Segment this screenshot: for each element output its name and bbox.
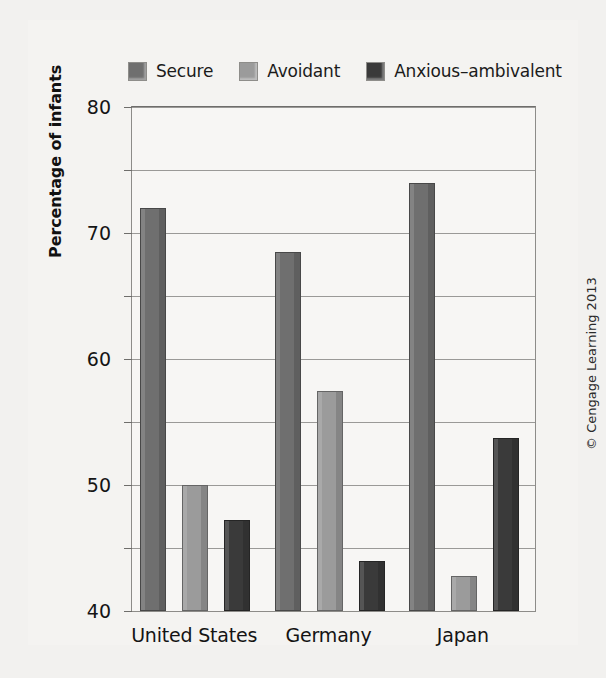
- gridline: [132, 170, 535, 171]
- legend-label-anxious-ambivalent: Anxious–ambivalent: [394, 61, 562, 81]
- bar-japan-anxious-ambivalent: [493, 438, 519, 611]
- legend-label-secure: Secure: [156, 61, 213, 81]
- legend-label-avoidant: Avoidant: [267, 61, 340, 81]
- bar-shade: [201, 486, 207, 610]
- legend-item-avoidant: Avoidant: [239, 61, 340, 81]
- legend-item-secure: Secure: [128, 61, 213, 81]
- x-axis-label-germany: Germany: [286, 624, 372, 646]
- legend-swatch-secure: [128, 62, 147, 81]
- gridline: [132, 233, 535, 234]
- y-axis-tick-label: 50: [87, 474, 111, 496]
- bar-highlight: [360, 562, 364, 610]
- bar-highlight: [318, 392, 322, 611]
- gridline: [132, 359, 535, 360]
- bar-japan-avoidant: [451, 576, 477, 611]
- bar-shade: [336, 392, 342, 611]
- bar-germany-anxious-ambivalent: [359, 561, 385, 611]
- y-axis-tick: 50: [124, 296, 132, 297]
- bar-united-states-anxious-ambivalent: [224, 520, 250, 611]
- figure-container: Secure Avoidant Anxious–ambivalent Perce…: [0, 0, 606, 678]
- legend-swatch-anxious-ambivalent: [366, 62, 385, 81]
- bar-highlight: [494, 439, 498, 610]
- y-axis-tick-label: 60: [87, 348, 111, 370]
- bar-shade: [159, 209, 165, 610]
- y-axis-tick-label: 80: [87, 96, 111, 118]
- gridline: [132, 296, 535, 297]
- bar-shade: [428, 184, 434, 610]
- legend-swatch-avoidant: [239, 62, 258, 81]
- bar-germany-avoidant: [317, 391, 343, 612]
- y-axis-tick-label: 40: [87, 600, 111, 622]
- bar-highlight: [410, 184, 414, 610]
- y-axis-tick: 70: [124, 170, 132, 171]
- bar-highlight: [276, 253, 280, 610]
- y-axis-tick: 30: [124, 422, 132, 423]
- gridline: [132, 107, 535, 108]
- bar-japan-secure: [409, 183, 435, 611]
- y-axis-tick: 20: [124, 485, 132, 486]
- y-axis-title: Percentage of infants: [46, 65, 65, 258]
- bar-shade: [512, 439, 518, 610]
- y-axis-tick: 80: [124, 107, 132, 108]
- legend-item-anxious-ambivalent: Anxious–ambivalent: [366, 61, 562, 81]
- x-axis-label-united-states: United States: [131, 624, 257, 646]
- bar-shade: [378, 562, 384, 610]
- copyright-credit: © Cengage Learning 2013: [584, 277, 599, 450]
- y-axis-tick-label: 70: [87, 222, 111, 244]
- plot-area: 01020304050607080: [131, 106, 536, 612]
- bar-shade: [294, 253, 300, 610]
- figure-paper: Secure Avoidant Anxious–ambivalent Perce…: [28, 20, 578, 645]
- bar-highlight: [452, 577, 456, 610]
- bar-highlight: [183, 486, 187, 610]
- x-axis-label-japan: Japan: [437, 624, 489, 646]
- y-axis-tick: 40: [124, 359, 132, 360]
- bar-united-states-secure: [140, 208, 166, 611]
- bar-germany-secure: [275, 252, 301, 611]
- y-axis-tick: 10: [124, 548, 132, 549]
- bar-shade: [470, 577, 476, 610]
- bar-highlight: [225, 521, 229, 610]
- y-axis-tick: 60: [124, 233, 132, 234]
- chart-legend: Secure Avoidant Anxious–ambivalent: [128, 56, 558, 86]
- bar-united-states-avoidant: [182, 485, 208, 611]
- y-axis-tick: 0: [124, 611, 132, 612]
- bar-highlight: [141, 209, 145, 610]
- bar-shade: [243, 521, 249, 610]
